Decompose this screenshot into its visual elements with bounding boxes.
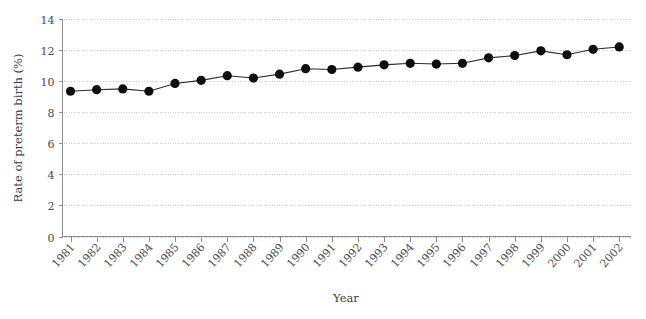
data-point-1985 — [170, 79, 179, 88]
x-tick-label-1990: 1990 — [284, 241, 312, 271]
y-axis-group: 02468101214 — [41, 14, 63, 245]
x-tick-label-1999: 1999 — [519, 241, 547, 271]
chart-canvas: 02468101214 1981198219831984198519861987… — [0, 0, 646, 319]
series-line-preterm-birth — [71, 47, 620, 91]
x-tick-label-1988: 1988 — [231, 241, 259, 271]
y-tick-label: 0 — [48, 232, 55, 245]
data-point-1983 — [118, 84, 127, 93]
gridlines-group — [64, 20, 632, 238]
x-tick-label-2000: 2000 — [545, 241, 573, 271]
data-point-1987 — [223, 71, 232, 80]
x-tick-label-2001: 2001 — [571, 241, 599, 271]
data-point-1989 — [275, 70, 284, 79]
data-point-1988 — [249, 73, 258, 82]
data-point-1998 — [510, 51, 519, 60]
data-point-1991 — [327, 65, 336, 74]
preterm-birth-rate-line-chart: 02468101214 1981198219831984198519861987… — [0, 0, 646, 319]
y-axis-tick-labels: 02468101214 — [41, 14, 55, 245]
x-tick-label-1997: 1997 — [467, 241, 495, 271]
y-tick-label: 8 — [48, 107, 55, 120]
data-point-1993 — [379, 60, 388, 69]
data-point-1992 — [353, 63, 362, 72]
x-tick-label-1985: 1985 — [153, 241, 181, 271]
y-tick-label: 14 — [41, 14, 55, 27]
data-point-2002 — [615, 42, 624, 51]
data-point-1984 — [144, 87, 153, 96]
x-tick-label-1989: 1989 — [258, 241, 286, 271]
x-axis-tick-labels: 1981198219831984198519861987198819891990… — [49, 241, 625, 271]
y-tick-label: 6 — [48, 138, 55, 151]
data-point-1981 — [66, 87, 75, 96]
data-point-1999 — [536, 46, 545, 55]
x-tick-label-1995: 1995 — [414, 241, 442, 271]
x-tick-label-1984: 1984 — [127, 241, 155, 271]
data-point-1982 — [92, 85, 101, 94]
y-tick-label: 10 — [41, 76, 55, 89]
x-axis-group: 1981198219831984198519861987198819891990… — [49, 237, 631, 271]
data-point-1997 — [484, 53, 493, 62]
data-point-1986 — [197, 76, 206, 85]
y-tick-label: 12 — [41, 45, 55, 58]
data-point-1994 — [406, 59, 415, 68]
x-axis-title: Year — [332, 291, 359, 305]
x-tick-label-1987: 1987 — [205, 241, 233, 271]
x-tick-label-1992: 1992 — [336, 241, 364, 271]
x-tick-label-1993: 1993 — [362, 241, 390, 271]
y-tick-label: 4 — [48, 169, 55, 182]
x-tick-label-1991: 1991 — [310, 241, 338, 271]
x-tick-label-1998: 1998 — [493, 241, 521, 271]
x-tick-label-2002: 2002 — [597, 241, 625, 271]
data-point-2001 — [589, 45, 598, 54]
x-tick-label-1994: 1994 — [388, 241, 416, 271]
data-point-1996 — [458, 59, 467, 68]
y-tick-label: 2 — [48, 200, 55, 213]
x-tick-label-1996: 1996 — [440, 241, 468, 271]
x-tick-label-1983: 1983 — [101, 241, 129, 271]
x-tick-label-1986: 1986 — [179, 241, 207, 271]
data-point-2000 — [562, 50, 571, 59]
x-tick-label-1982: 1982 — [75, 241, 103, 271]
y-axis-title: Rate of preterm birth (%) — [11, 54, 25, 203]
data-point-1995 — [432, 59, 441, 68]
x-tick-label-1981: 1981 — [49, 241, 77, 271]
data-point-1990 — [301, 64, 310, 73]
